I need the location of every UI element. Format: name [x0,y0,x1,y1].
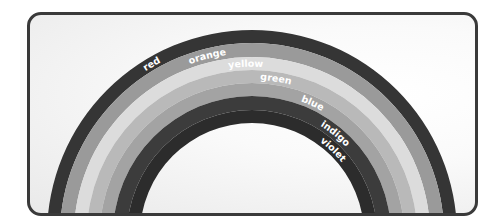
diagram-frame: redorangeyellowgreenblueindigoviolet [27,12,478,216]
rainbow-diagram: redorangeyellowgreenblueindigoviolet [27,12,478,216]
band-label-yellow: yellow [227,58,263,71]
